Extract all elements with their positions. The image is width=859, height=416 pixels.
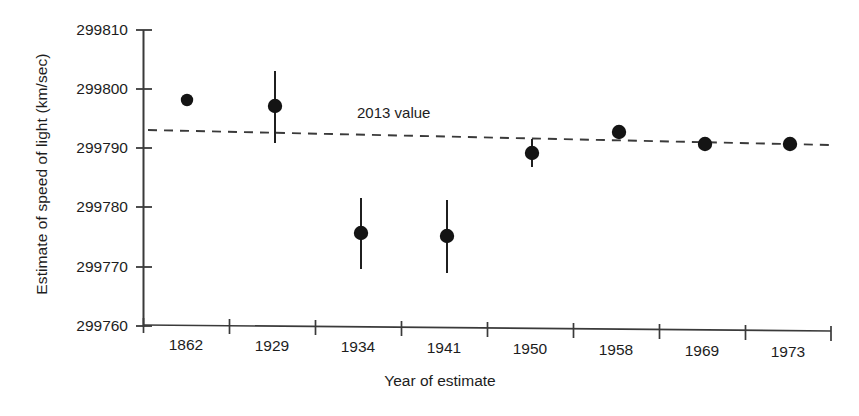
x-axis-title: Year of estimate xyxy=(340,372,540,390)
y-tick-label-299800: 299800 xyxy=(38,80,128,98)
x-tick-label-1862: 1862 xyxy=(151,336,221,354)
data-point-1950 xyxy=(525,146,539,160)
data-point-1862 xyxy=(181,94,193,106)
y-tick-label-299760: 299760 xyxy=(38,317,128,335)
reference-line-2013-value xyxy=(148,130,831,145)
data-point-1958 xyxy=(612,125,626,139)
x-tick-label-1969: 1969 xyxy=(667,342,737,360)
chart-figure: 299810 299800 299790 299780 299770 29976… xyxy=(0,0,859,416)
data-point-1969 xyxy=(698,137,712,151)
data-point-1941 xyxy=(440,229,454,243)
data-point-1929 xyxy=(268,99,282,113)
y-tick-label-299790: 299790 xyxy=(38,139,128,157)
y-axis-title: Estimate of speed of light (km/sec) xyxy=(33,14,51,334)
x-tick-label-1958: 1958 xyxy=(581,341,651,359)
y-tick-label-299810: 299810 xyxy=(38,21,128,39)
data-point-1973 xyxy=(783,137,797,151)
reference-line-label: 2013 value xyxy=(357,104,430,121)
x-tick-label-1950: 1950 xyxy=(495,340,565,358)
x-tick-label-1941: 1941 xyxy=(409,339,479,357)
y-tick-label-299780: 299780 xyxy=(38,198,128,216)
data-point-1934 xyxy=(354,226,368,240)
x-tick-label-1929: 1929 xyxy=(237,337,307,355)
x-tick-label-1934: 1934 xyxy=(323,338,393,356)
y-tick-label-299770: 299770 xyxy=(38,258,128,276)
x-tick-label-1973: 1973 xyxy=(753,343,823,361)
